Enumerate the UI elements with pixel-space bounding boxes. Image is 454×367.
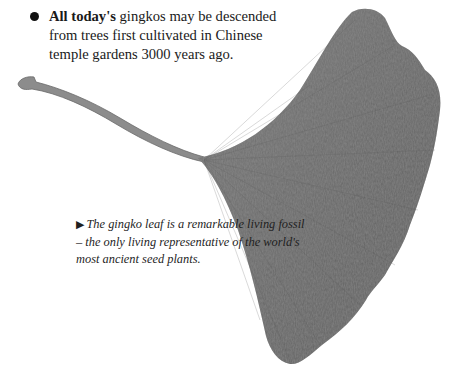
leaf-blade: [198, 9, 440, 364]
leaf-stem: [18, 77, 204, 162]
figure-caption: ▶The gingko leaf is a remarkable living …: [76, 216, 306, 269]
caption-arrow-icon: ▶: [76, 218, 84, 230]
gingko-leaf-illustration: [0, 0, 454, 367]
caption-text: The gingko leaf is a remarkable living f…: [76, 217, 305, 266]
